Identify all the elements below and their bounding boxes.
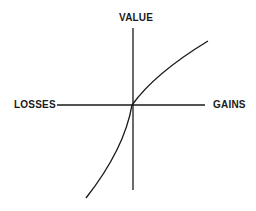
losses-axis-label: LOSSES [14,100,56,110]
gains-axis-label: GAINS [213,100,246,110]
value-curve [86,41,208,198]
value-axis-label: VALUE [119,13,153,23]
